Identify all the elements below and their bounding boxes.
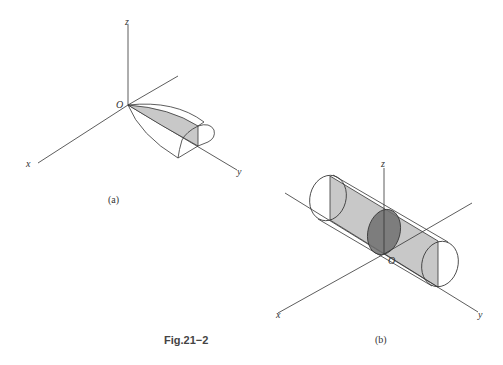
caption-a: (a) xyxy=(108,194,119,206)
end-cap-arc-a xyxy=(198,125,214,142)
z-label-b: z xyxy=(380,158,385,169)
x-label-a: x xyxy=(25,158,31,169)
figure-caption: Fig.21−2 xyxy=(164,334,208,346)
base-edge-a xyxy=(178,146,198,158)
panel-b: z O x y (b) xyxy=(275,158,483,346)
origin-label-b: O xyxy=(388,255,395,266)
shaded-section-a xyxy=(128,105,198,146)
y-label-a: y xyxy=(236,166,242,177)
base-edge2-a xyxy=(198,142,208,146)
z-label-a: z xyxy=(124,16,129,27)
origin-label-a: O xyxy=(116,99,123,110)
x-label-b: x xyxy=(275,309,281,320)
x-axis-front-b xyxy=(278,254,384,313)
panel-a: z O x y (a) xyxy=(25,16,242,206)
figure-canvas: z O x y (a) z O x y (b) F xyxy=(0,0,503,365)
y-label-b: y xyxy=(477,309,483,320)
back-axis-a xyxy=(128,76,178,105)
x-axis-a xyxy=(38,105,128,163)
caption-b: (b) xyxy=(375,334,387,346)
